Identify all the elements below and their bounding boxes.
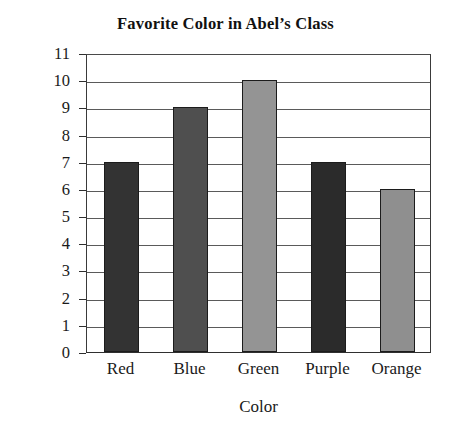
y-tick-label: 2: [30, 291, 70, 308]
bar-red: [104, 162, 139, 352]
x-tick-label-purple: Purple: [293, 359, 362, 379]
y-tick-mark: [79, 108, 86, 109]
y-tick-label: 6: [30, 182, 70, 199]
y-tick-mark: [79, 81, 86, 82]
x-tick-label-blue: Blue: [155, 359, 224, 379]
y-tick-mark: [79, 54, 86, 55]
bar-orange: [380, 189, 415, 352]
y-tick-mark: [79, 163, 86, 164]
y-tick-label: 4: [30, 236, 70, 253]
y-tick-label: 10: [30, 73, 70, 90]
x-tick-label-red: Red: [86, 359, 155, 379]
y-tick-mark: [79, 271, 86, 272]
y-tick-mark: [79, 244, 86, 245]
y-tick-label: 7: [30, 155, 70, 172]
y-tick-mark: [79, 353, 86, 354]
bar-green: [242, 80, 277, 352]
y-tick-mark: [79, 326, 86, 327]
plot-area: [86, 54, 431, 353]
y-tick-label: 9: [30, 100, 70, 117]
y-tick-label: 5: [30, 209, 70, 226]
y-tick-label: 3: [30, 263, 70, 280]
x-axis-title: Color: [86, 397, 431, 417]
chart-title: Favorite Color in Abel’s Class: [0, 14, 451, 34]
y-tick-label: 8: [30, 128, 70, 145]
y-tick-mark: [79, 299, 86, 300]
bar-blue: [173, 107, 208, 352]
x-tick-label-orange: Orange: [362, 359, 431, 379]
y-tick-label: 1: [30, 318, 70, 335]
y-tick-mark: [79, 217, 86, 218]
y-tick-label: 11: [30, 46, 70, 63]
bar-purple: [311, 162, 346, 352]
y-tick-mark: [79, 136, 86, 137]
y-tick-label: 0: [30, 345, 70, 362]
x-tick-label-green: Green: [224, 359, 293, 379]
y-tick-mark: [79, 190, 86, 191]
